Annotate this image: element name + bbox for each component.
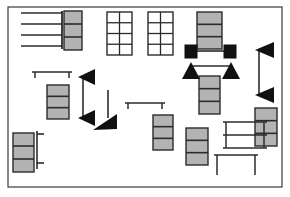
left-arrow-pair-inner-bottom-triangle <box>78 110 95 126</box>
up-triangle-right <box>222 62 240 79</box>
up-triangle-left <box>182 62 200 79</box>
module-stack-5 <box>13 133 34 172</box>
down-arrow-center-head <box>93 114 117 130</box>
figure-canvas <box>0 0 290 197</box>
module-stack-7 <box>153 115 173 150</box>
left-arrow-pair-outer-bottom-triangle <box>255 87 274 103</box>
module-stack-4 <box>47 85 69 119</box>
module-stack-1 <box>64 11 82 50</box>
module-stack-2 <box>197 12 222 49</box>
left-arrow-pair-outer-top-triangle <box>255 42 274 58</box>
schematic-diagram <box>0 0 290 197</box>
left-arrow-pair-inner-top-triangle <box>78 69 95 85</box>
node-square-right <box>224 45 236 58</box>
module-stack-6 <box>199 76 220 114</box>
node-square-left <box>185 45 197 58</box>
module-stack-3 <box>255 108 277 146</box>
module-stack-8 <box>186 128 208 165</box>
